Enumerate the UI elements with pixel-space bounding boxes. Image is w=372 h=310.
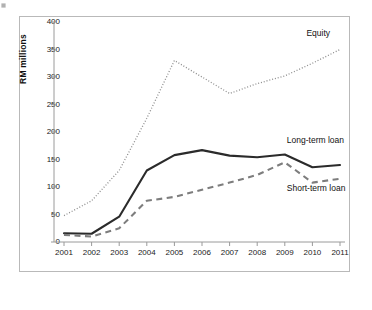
chart-plot-area: [0, 0, 372, 310]
series-label-equity: Equity: [306, 29, 330, 38]
page-corner-marker: [0, 2, 7, 9]
series-label-long-term-loan: Long-term loan: [287, 136, 344, 145]
series-label-short-term-loan: Short-term loan: [287, 184, 346, 193]
chart-figure: RM millions 050100150200250300350400 200…: [0, 0, 372, 310]
